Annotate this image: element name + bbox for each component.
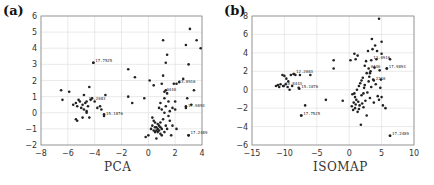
point-annotation: 0440	[371, 64, 381, 69]
data-point	[365, 114, 368, 117]
data-point	[355, 99, 358, 102]
annotated-point	[185, 107, 188, 110]
x-tick-label: −2	[116, 149, 128, 158]
data-point	[81, 103, 84, 106]
data-point	[199, 47, 202, 50]
data-point	[144, 136, 147, 139]
data-point	[134, 76, 137, 79]
data-point	[169, 110, 172, 113]
data-point	[167, 115, 170, 118]
data-point	[374, 83, 377, 86]
point-annotation: 15.1876	[301, 84, 318, 89]
scatter-plot-isomap: −15−10−50510−6−4−20246812.208310.844315.…	[217, 0, 434, 185]
y-tick-label: 0	[32, 109, 37, 118]
data-point	[151, 116, 154, 119]
data-point	[147, 134, 150, 137]
data-point	[352, 109, 355, 112]
data-point	[363, 84, 366, 87]
y-tick-label: 2	[32, 77, 37, 86]
data-point	[160, 134, 163, 137]
data-point	[186, 97, 189, 100]
data-point	[173, 82, 176, 85]
data-point	[164, 61, 167, 64]
panel-label-a: (a)	[3, 3, 24, 18]
point-annotation: 13.0916	[373, 55, 390, 60]
data-point	[193, 89, 196, 92]
data-point	[290, 74, 293, 77]
data-point	[356, 111, 359, 114]
data-point	[354, 96, 357, 99]
data-point	[373, 101, 376, 104]
data-point	[81, 116, 84, 119]
data-point	[163, 97, 166, 100]
data-point	[185, 44, 188, 47]
annotated-point	[385, 67, 388, 70]
data-point	[360, 123, 363, 126]
data-point	[283, 75, 286, 78]
data-point	[370, 86, 373, 89]
x-tick-label: 10	[409, 149, 419, 158]
data-point	[380, 96, 383, 99]
annotated-point	[370, 59, 373, 62]
data-point	[100, 108, 103, 111]
data-point	[174, 100, 177, 103]
annotated-point	[367, 67, 370, 70]
data-point	[380, 41, 383, 44]
x-tick-label: 0	[347, 149, 352, 158]
data-point	[332, 67, 335, 70]
y-tick-label: 4	[243, 49, 248, 58]
data-point	[279, 83, 282, 86]
data-point	[378, 69, 381, 72]
data-point	[148, 79, 151, 82]
y-tick-label: 3	[32, 60, 37, 69]
data-point	[358, 104, 361, 107]
data-point	[378, 17, 381, 20]
data-point	[156, 131, 159, 134]
data-point	[376, 50, 379, 53]
data-point	[170, 134, 173, 137]
data-point	[362, 106, 365, 109]
y-tick-label: 5	[32, 28, 37, 37]
data-point	[68, 90, 71, 93]
data-point	[85, 110, 88, 113]
data-point	[76, 120, 79, 123]
data-point	[171, 107, 174, 110]
data-point	[352, 101, 355, 104]
chart-panel-isomap: −15−10−50510−6−4−20246812.208310.844315.…	[217, 0, 434, 185]
point-annotation: 10.8443	[285, 81, 302, 86]
data-point	[80, 107, 83, 110]
data-point	[99, 105, 102, 108]
x-axis-label-isomap: ISOMAP	[313, 160, 368, 174]
data-point	[167, 100, 170, 103]
data-point	[160, 82, 163, 85]
data-point	[374, 44, 377, 47]
point-annotation: 17.9893	[389, 64, 406, 69]
data-point	[60, 89, 63, 92]
data-point	[378, 99, 381, 102]
annotated-point	[389, 134, 392, 137]
x-tick-label: −4	[89, 149, 101, 158]
data-point	[127, 95, 130, 98]
data-point	[76, 105, 79, 108]
y-tick-label: 2	[243, 67, 248, 76]
annotated-point	[175, 82, 178, 85]
data-point	[368, 76, 371, 79]
data-point	[152, 129, 155, 132]
data-point	[356, 54, 359, 57]
data-point	[83, 108, 86, 111]
x-axis-label-pca: PCA	[104, 160, 131, 174]
y-tick-label: −4	[236, 123, 248, 132]
y-tick-label: 4	[32, 44, 37, 53]
data-point	[357, 100, 360, 103]
y-tick-label: −2	[25, 141, 37, 150]
data-point	[304, 104, 307, 107]
data-point	[83, 94, 86, 97]
data-point	[162, 74, 165, 77]
data-point	[159, 102, 162, 105]
data-point	[353, 52, 356, 55]
data-point	[365, 72, 368, 75]
point-annotation: 12.2083	[296, 69, 313, 74]
data-point	[150, 128, 153, 131]
y-tick-label: −1	[25, 125, 37, 134]
x-tick-label: −15	[244, 149, 261, 158]
